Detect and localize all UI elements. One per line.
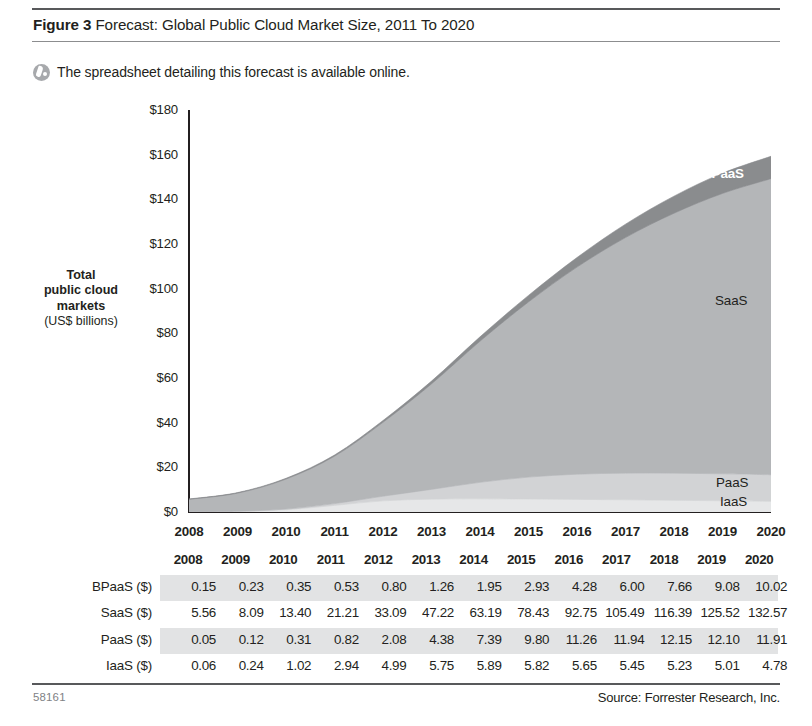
y-axis-tick: $0 [118, 504, 178, 519]
y-axis-title: Total public cloud markets (US$ billions… [20, 268, 142, 330]
table-cell: 10.02 [731, 579, 787, 594]
y-axis-tick: $140 [118, 191, 178, 206]
y-axis-title-line1: Total [66, 268, 95, 282]
y-axis-units: (US$ billions) [44, 314, 118, 328]
y-axis-title-line3: markets [57, 299, 105, 313]
table-column-header: 2020 [731, 552, 787, 567]
folio-number: 58161 [33, 691, 66, 703]
table-body: BPaaS ($)0.150.230.350.530.801.261.952.9… [0, 575, 812, 681]
table-row-label: IaaS ($) [0, 658, 152, 673]
series-label-saas: SaaS [715, 293, 747, 308]
plot-area [189, 110, 771, 512]
table-row-label: BPaaS ($) [0, 579, 152, 594]
table-cell: 132.57 [731, 605, 787, 620]
series-label-bpaas: BPaaS [702, 166, 744, 181]
table-cell: 4.78 [731, 658, 787, 673]
table-cell: 11.91 [731, 632, 787, 647]
y-axis-tick: $120 [118, 236, 178, 251]
y-axis-tick: $100 [118, 281, 178, 296]
table-header-row: 2008200920102011201220132014201520162017… [0, 548, 812, 575]
table-row: PaaS ($)0.050.120.310.822.084.387.399.80… [0, 628, 812, 655]
y-axis-tick: $40 [118, 415, 178, 430]
source-credit: Source: Forrester Research, Inc. [598, 690, 780, 705]
series-label-paas: PaaS [716, 475, 748, 490]
y-axis-tick: $80 [118, 325, 178, 340]
series-label-iaas: IaaS [720, 494, 747, 509]
y-axis-tick: $20 [118, 459, 178, 474]
y-axis-tick: $180 [118, 102, 178, 117]
y-axis-tick: $160 [118, 147, 178, 162]
table-row: SaaS ($)5.568.0913.4021.2133.0947.2263.1… [0, 601, 812, 628]
table-row-label: SaaS ($) [0, 605, 152, 620]
data-table: 2008200920102011201220132014201520162017… [0, 548, 812, 681]
figure-page: Figure 3 Forecast: Global Public Cloud M… [0, 0, 812, 726]
y-axis-tick: $60 [118, 370, 178, 385]
x-axis-tick: 2020 [743, 524, 799, 539]
footer-rule [32, 683, 780, 685]
table-row: IaaS ($)0.060.241.022.944.995.755.895.82… [0, 654, 812, 681]
table-row: BPaaS ($)0.150.230.350.530.801.261.952.9… [0, 575, 812, 602]
y-axis-title-line2: public cloud [44, 283, 118, 297]
table-row-label: PaaS ($) [0, 632, 152, 647]
area-band-saas [189, 179, 771, 512]
